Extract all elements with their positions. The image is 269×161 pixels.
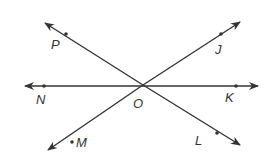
label-n: N (36, 92, 46, 107)
label-o: O (133, 96, 143, 111)
point-l (215, 131, 219, 135)
point-n (42, 84, 46, 88)
point-k (234, 84, 238, 88)
line-pl-upper (45, 23, 143, 85)
label-k: K (225, 90, 235, 105)
label-j: J (214, 42, 222, 57)
point-j (219, 32, 223, 36)
label-l: L (195, 133, 202, 148)
point-p (64, 32, 68, 36)
label-m: M (76, 135, 87, 150)
label-p: P (51, 37, 60, 52)
line-jm-lower (48, 85, 143, 150)
intersecting-lines-diagram: P J N K O M L (0, 0, 269, 161)
point-m (70, 140, 74, 144)
line-jm-upper (143, 22, 240, 85)
